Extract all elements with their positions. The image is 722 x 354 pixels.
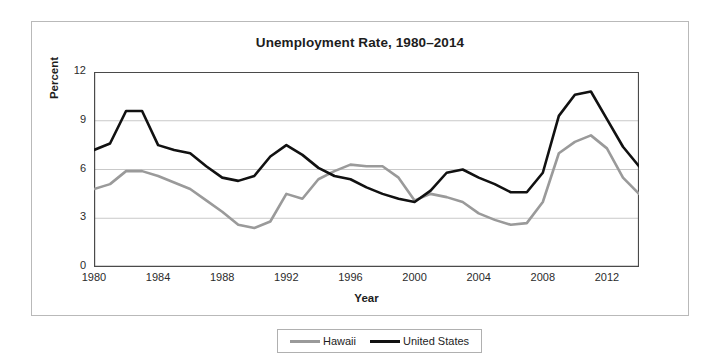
- data-series-group: [94, 92, 639, 229]
- x-tick-label-2000: 2000: [395, 271, 435, 283]
- legend-item-united-states[interactable]: United States: [370, 335, 469, 347]
- x-tick-label-1980: 1980: [74, 271, 114, 283]
- x-tick-label-1984: 1984: [138, 271, 178, 283]
- line-chart-svg: [94, 72, 639, 267]
- legend-label: United States: [403, 335, 469, 347]
- gridlines: [94, 73, 639, 219]
- y-tick-label-0: 0: [60, 259, 86, 271]
- series-line-united-states: [94, 92, 639, 203]
- y-tick-label-12: 12: [60, 64, 86, 76]
- x-tick-label-2012: 2012: [587, 271, 627, 283]
- legend-label: Hawaii: [323, 335, 356, 347]
- legend-swatch-icon: [370, 340, 400, 343]
- chart-legend: HawaiiUnited States: [277, 329, 482, 353]
- x-tick-label-2008: 2008: [523, 271, 563, 283]
- legend-item-hawaii[interactable]: Hawaii: [290, 335, 356, 347]
- y-tick-label-9: 9: [60, 113, 86, 125]
- x-tick-label-1988: 1988: [202, 271, 242, 283]
- legend-swatch-icon: [290, 340, 320, 343]
- x-tick-label-2004: 2004: [459, 271, 499, 283]
- x-tick-label-1992: 1992: [266, 271, 306, 283]
- chart-figure-frame: Unemployment Rate, 1980–2014 Percent 036…: [31, 21, 689, 316]
- y-tick-label-6: 6: [60, 162, 86, 174]
- x-axis-tick-labels: 198019841988199219962000200420082012: [94, 271, 639, 291]
- page-title: Unemployment Rate, 1980–2014: [32, 35, 688, 50]
- plot-area: [94, 72, 639, 267]
- y-tick-label-3: 3: [60, 210, 86, 222]
- y-axis-tick-labels: 036912: [54, 72, 86, 267]
- x-axis-title: Year: [94, 292, 639, 304]
- x-tick-label-1996: 1996: [330, 271, 370, 283]
